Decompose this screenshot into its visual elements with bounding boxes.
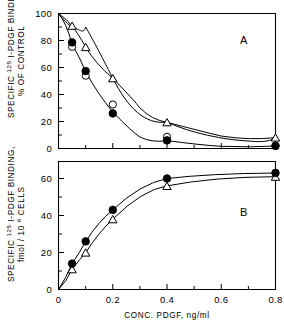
data-point-triangle xyxy=(163,182,171,189)
data-point-triangle xyxy=(82,249,90,256)
data-point-filled-circle xyxy=(109,110,117,118)
panel-a-ylabel-text: SPECIFIC 125 I-PDGF BINDING, xyxy=(4,0,16,118)
panel-a-ylabel-subtext: % OF CONTROL xyxy=(17,26,26,96)
panel-b-ylabel-text: SPECIFIC 125 I-PDGF BINDING, xyxy=(4,146,16,282)
panel-a-ytick-60: 60 xyxy=(41,62,52,73)
figure-svg: SPECIFIC 125 I-PDGF BINDING, % OF CONTRO… xyxy=(0,0,284,330)
data-point-filled-circle xyxy=(272,169,280,177)
data-point-filled-circle xyxy=(109,206,117,214)
panel-b-ylabel: SPECIFIC 125 I-PDGF BINDING, fmol / 10 6… xyxy=(4,146,26,282)
panel-b-markers-filled-circle xyxy=(68,169,279,267)
panel-b-ytick-40: 40 xyxy=(41,210,52,221)
panel-b-ytick-0: 0 xyxy=(46,284,52,295)
panel-a-ytick-20: 20 xyxy=(41,116,52,127)
x-ticklabels: 0 0.2 0.4 0.6 0.8 xyxy=(56,294,283,305)
panel-a-markers-open-circle xyxy=(69,43,280,149)
data-point-filled-circle xyxy=(163,175,171,183)
panel-b-curve-filled-circle xyxy=(59,173,276,290)
panel-a-ytick-0: 0 xyxy=(46,143,52,154)
data-point-filled-circle xyxy=(68,39,76,47)
data-point-filled-circle xyxy=(82,238,90,246)
xtick-0-6: 0.6 xyxy=(214,294,228,305)
panel-b-label: B xyxy=(240,206,248,218)
panel-a-label: A xyxy=(240,34,248,46)
panel-a-markers-open-triangle xyxy=(68,22,280,141)
panel-a-ytick-40: 40 xyxy=(41,89,52,100)
panel-a-y-ticklabels: 100 80 60 40 20 0 xyxy=(35,8,52,154)
xtick-0-8: 0.8 xyxy=(268,294,282,305)
panel-b-ytick-60: 60 xyxy=(41,173,52,184)
panel-b-y-ticklabels: 60 40 20 0 xyxy=(41,173,52,295)
data-point-filled-circle xyxy=(163,137,171,145)
panel-a-ylabel: SPECIFIC 125 I-PDGF BINDING, % OF CONTRO… xyxy=(4,0,26,118)
figure-container: SPECIFIC 125 I-PDGF BINDING, % OF CONTRO… xyxy=(0,0,284,330)
data-point-triangle xyxy=(82,43,90,50)
panel-a-ytick-100: 100 xyxy=(35,8,52,19)
xtick-0-4: 0.4 xyxy=(160,294,174,305)
x-axis-label: CONC. PDGF, ng/ml xyxy=(124,311,209,320)
panel-a-ytick-80: 80 xyxy=(41,35,52,46)
data-point-filled-circle xyxy=(82,67,90,75)
panel-b-curves xyxy=(59,173,276,290)
panel-a-markers-filled-circle xyxy=(68,39,279,150)
xtick-0: 0 xyxy=(56,294,62,305)
xtick-0-2: 0.2 xyxy=(106,294,120,305)
data-point-open-circle xyxy=(109,101,116,108)
data-point-filled-circle xyxy=(272,142,280,150)
data-point-filled-circle xyxy=(68,260,76,268)
panel-b-ytick-20: 20 xyxy=(41,247,52,258)
